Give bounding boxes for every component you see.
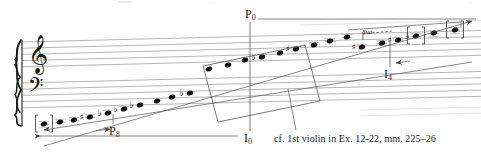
label-i0: I0 — [244, 132, 252, 146]
geometry-overlay-layer — [0, 0, 481, 154]
row-segment-parallelogram — [203, 45, 320, 122]
label-p8: P8 — [109, 125, 120, 139]
music-diagram-figure: 𝄞 𝄢 ♯♭♭♭♭♭♯♯♯♭ — [0, 0, 481, 154]
label-p0-base: P — [245, 7, 252, 21]
inversion-axis-line — [44, 62, 472, 130]
label-i0-sub: 0 — [248, 137, 252, 146]
label-i4-sub: 4 — [388, 73, 392, 82]
label-p8-base: P — [109, 124, 116, 138]
caption-leader-line — [288, 89, 296, 130]
figure-caption: cf. 1st violin in Ex. 12-22, mm. 225–26 — [274, 134, 436, 144]
label-p0-sub: 0 — [252, 13, 256, 22]
i4-pointer — [396, 61, 410, 63]
label-i4: I4 — [384, 68, 392, 82]
label-p8-sub: 8 — [116, 130, 120, 139]
label-p0: P0 — [245, 8, 256, 22]
ottava-label: 8va — [362, 28, 372, 36]
